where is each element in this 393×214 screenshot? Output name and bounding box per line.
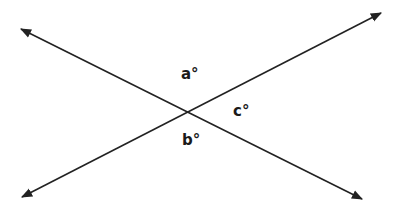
- angle-label-c: c°: [233, 102, 249, 120]
- line-2: [22, 13, 381, 197]
- line-1: [21, 29, 362, 199]
- intersecting-lines-diagram: a° c° b°: [0, 0, 393, 214]
- angle-label-a: a°: [181, 65, 199, 83]
- angle-label-b: b°: [182, 131, 200, 149]
